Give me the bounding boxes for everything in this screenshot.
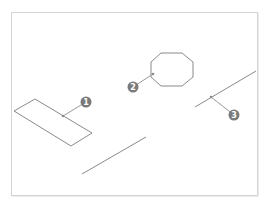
callout-3-label: 3 [231,111,237,120]
callout-1-label: 1 [83,98,89,107]
callout-2: 2 [128,73,155,93]
callout-2-label: 2 [130,83,136,92]
callout-1: 1 [62,97,92,118]
line-middle-shape[interactable] [82,137,146,174]
callout-1-pick-point [62,115,65,118]
diagram-canvas: 1 2 3 [0,0,270,209]
callout-2-pick-point [152,73,155,76]
callout-3: 3 [210,96,240,121]
callout-3-pick-point [210,96,213,99]
callout-1-badge: 1 [81,97,92,108]
callout-3-badge: 3 [229,110,240,121]
callout-2-badge: 2 [128,82,139,93]
line-right-shape[interactable] [195,71,256,107]
octagon-shape[interactable] [151,53,193,86]
